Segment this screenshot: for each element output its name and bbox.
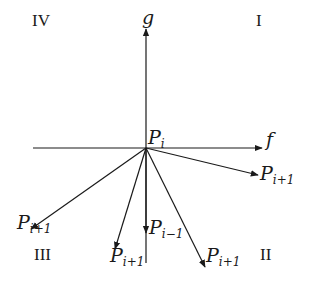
quadrant-iv-label: IV — [32, 12, 50, 29]
vector-down-right-label: Pi+1 — [206, 246, 240, 265]
vector-right-label: Pi+1 — [260, 164, 294, 183]
quadrant-i-label: I — [256, 12, 262, 29]
vector-down-label: Pi−1 — [149, 218, 183, 237]
quadrant-iii-label: III — [34, 246, 51, 263]
g-axis-label: g — [142, 8, 154, 27]
vector-lower-left-label: Pi+1 — [17, 213, 51, 232]
vector-down-right-arrow — [146, 148, 205, 267]
quadrant-ii-label: II — [260, 246, 271, 263]
origin-label: Pi — [148, 128, 165, 147]
vector-down-left-label: Pi+1 — [110, 246, 144, 265]
vector-down-left-arrow — [115, 148, 146, 249]
vector-right-arrow — [146, 148, 258, 175]
f-axis-label: f — [266, 130, 273, 149]
